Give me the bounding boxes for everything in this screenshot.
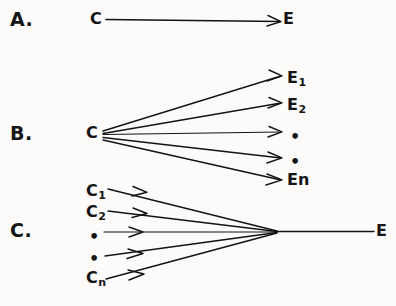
panel-b-arrow-3: [103, 127, 282, 138]
panel-b-arrow-4: [103, 138, 282, 164]
panel-label-b: B.: [10, 124, 33, 143]
panel-b-arrow-5: [103, 140, 282, 185]
cause-2-base: C: [86, 202, 98, 221]
panel-c-ellipsis-dot-1: •: [89, 229, 99, 245]
figure-canvas: A. B. C. C E C E1 E2 • • En C1 C2 • • Cn…: [0, 0, 396, 306]
effect-n-base: E: [287, 170, 298, 189]
panel-c-cause-node-1: C1: [86, 183, 105, 199]
cause-1-base: C: [86, 181, 98, 200]
panel-b-ellipsis-dot-2: •: [290, 154, 300, 170]
panel-b-arrow-1: [103, 70, 282, 131]
panel-a-arrow: [106, 16, 281, 27]
panel-label-c: C.: [10, 221, 32, 240]
cause-n-subscript: n: [98, 276, 106, 289]
panel-a-cause-node: C: [90, 11, 102, 27]
panel-b-ellipsis-dot-1: •: [290, 129, 300, 145]
effect-2-base: E: [287, 95, 298, 114]
effect-1-base: E: [287, 68, 298, 87]
panel-c-cause-node-n: Cn: [86, 270, 106, 286]
cause-1-subscript: 1: [98, 189, 106, 202]
panel-b-effect-node-n: En: [287, 172, 309, 188]
panel-c-ellipsis-dot-2: •: [89, 251, 99, 267]
panel-b-effect-node-1: E1: [287, 70, 306, 86]
effect-n-subscript: n: [298, 170, 309, 189]
panel-c-cause-node-2: C2: [86, 204, 105, 220]
effect-2-subscript: 2: [298, 103, 306, 116]
panel-c-effect-node: E: [376, 223, 387, 239]
panel-b-cause-node: C: [86, 125, 98, 141]
effect-1-subscript: 1: [298, 76, 306, 89]
panel-b-effect-node-2: E2: [287, 97, 306, 113]
cause-2-subscript: 2: [98, 210, 106, 223]
panel-label-a: A.: [10, 10, 33, 29]
arrow-layer: [0, 0, 396, 306]
cause-n-base: C: [86, 268, 98, 287]
panel-a-effect-node: E: [283, 11, 294, 27]
